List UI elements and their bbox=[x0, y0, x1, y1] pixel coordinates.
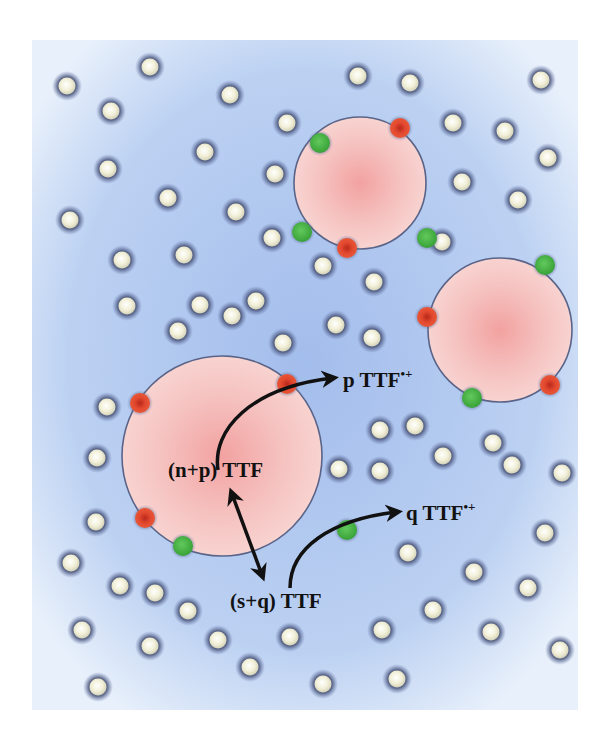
ttf-molecule bbox=[357, 323, 387, 353]
ttf-molecule bbox=[107, 245, 137, 275]
ttf-molecule bbox=[490, 116, 520, 146]
cation-site bbox=[127, 390, 153, 416]
ttf-molecule bbox=[140, 578, 170, 608]
ttf-molecule bbox=[185, 290, 215, 320]
ttf-molecule bbox=[55, 205, 85, 235]
ttf-molecule bbox=[235, 652, 265, 682]
ttf-molecule bbox=[163, 316, 193, 346]
ttf-molecule bbox=[153, 183, 183, 213]
ttf-molecule bbox=[275, 622, 305, 652]
label-sq-ttf: (s+q) TTF bbox=[230, 589, 322, 613]
ttf-molecule bbox=[308, 669, 338, 699]
ttf-molecule bbox=[530, 518, 560, 548]
ttf-molecule bbox=[365, 415, 395, 445]
ttf-molecule bbox=[547, 458, 577, 488]
ttf-molecule bbox=[135, 52, 165, 82]
ttf-molecule bbox=[105, 571, 135, 601]
ttf-molecule bbox=[257, 223, 287, 253]
cation-site bbox=[387, 115, 413, 141]
ttf-molecule bbox=[81, 507, 111, 537]
ttf-molecule bbox=[447, 167, 477, 197]
ttf-molecule bbox=[365, 456, 395, 486]
ttf-molecule bbox=[533, 143, 563, 173]
ttf-molecule bbox=[135, 631, 165, 661]
cation-site bbox=[132, 505, 158, 531]
ttf-molecule bbox=[92, 392, 122, 422]
ttf-molecule bbox=[96, 96, 126, 126]
ttf-molecule bbox=[173, 596, 203, 626]
ttf-molecule bbox=[438, 108, 468, 138]
ttf-molecule bbox=[545, 635, 575, 665]
ttf-molecule bbox=[52, 71, 82, 101]
ttf-molecule bbox=[268, 328, 298, 358]
ttf-molecule bbox=[382, 664, 412, 694]
ttf-molecule bbox=[215, 80, 245, 110]
ttf-molecule bbox=[503, 185, 533, 215]
ttf-molecule bbox=[343, 61, 373, 91]
ttf-molecule bbox=[428, 441, 458, 471]
cation-site bbox=[414, 304, 440, 330]
ttf-molecule bbox=[400, 411, 430, 441]
neutral-site bbox=[170, 533, 196, 559]
cation-site bbox=[537, 372, 563, 398]
ttf-molecule bbox=[393, 538, 423, 568]
tft-domain-diagram: (n+p) TTF (s+q) TTF p TTF•+ q TTF•+ bbox=[0, 0, 608, 743]
ttf-molecule bbox=[513, 573, 543, 603]
ttf-molecule bbox=[169, 240, 199, 270]
ttf-molecule bbox=[459, 557, 489, 587]
neutral-site bbox=[414, 225, 440, 251]
ttf-molecule bbox=[526, 65, 556, 95]
neutral-site bbox=[289, 219, 315, 245]
ttf-molecule bbox=[56, 548, 86, 578]
ttf-molecule bbox=[272, 108, 302, 138]
label-np-ttf: (n+p) TTF bbox=[168, 458, 263, 482]
ttf-molecule bbox=[203, 625, 233, 655]
ttf-molecule bbox=[418, 595, 448, 625]
neutral-site bbox=[307, 130, 333, 156]
ttf-molecule bbox=[308, 251, 338, 281]
ttf-molecule bbox=[190, 137, 220, 167]
ttf-molecule bbox=[221, 197, 251, 227]
ttf-molecule bbox=[83, 672, 113, 702]
ttf-molecule bbox=[367, 615, 397, 645]
ttf-molecule bbox=[67, 615, 97, 645]
neutral-site bbox=[532, 252, 558, 278]
ttf-molecule bbox=[321, 310, 351, 340]
ttf-molecule bbox=[395, 68, 425, 98]
cation-site bbox=[334, 235, 360, 261]
neutral-site bbox=[459, 385, 485, 411]
ttf-molecule bbox=[241, 286, 271, 316]
ttf-molecule bbox=[359, 267, 389, 297]
ttf-molecule bbox=[93, 154, 123, 184]
ttf-molecule bbox=[112, 291, 142, 321]
ttf-molecule bbox=[324, 454, 354, 484]
ttf-molecule bbox=[260, 159, 290, 189]
ttf-molecule bbox=[82, 443, 112, 473]
ttf-molecule bbox=[476, 617, 506, 647]
ttf-molecule bbox=[497, 450, 527, 480]
